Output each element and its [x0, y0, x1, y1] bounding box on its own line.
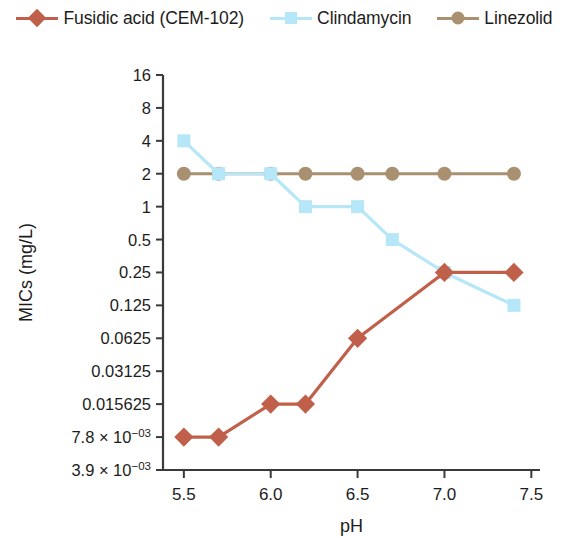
data-point	[504, 263, 523, 282]
data-point	[299, 200, 312, 213]
data-point	[209, 427, 228, 446]
y-axis-tick-label: 0.0625	[101, 329, 151, 347]
y-axis-tick-label: 0.25	[119, 263, 151, 281]
y-axis-tick-label: 16	[133, 66, 151, 84]
x-axis-title: pH	[340, 516, 363, 536]
data-point	[437, 167, 451, 181]
y-axis-tick-label: 4	[142, 132, 151, 150]
data-point	[351, 167, 365, 181]
y-axis-title: MICs (mg/L)	[16, 223, 36, 322]
data-point	[351, 200, 364, 213]
mic-vs-ph-chart: Fusidic acid (CEM-102) Clindamycin Linez…	[0, 0, 569, 538]
x-axis-tick-label: 6.5	[346, 485, 370, 504]
data-point	[298, 167, 312, 181]
y-axis-tick-label: 2	[142, 165, 151, 183]
x-axis-tick-label: 5.5	[172, 485, 196, 504]
data-point	[177, 134, 190, 147]
y-axis-tick-label: 0.03125	[91, 362, 151, 380]
y-axis-tick-label: 8	[142, 99, 151, 117]
series-clindamycin	[177, 134, 520, 312]
y-axis-tick-label: 1	[142, 198, 151, 216]
series-line	[184, 272, 514, 437]
x-axis-tick-label: 6.0	[259, 485, 283, 504]
y-axis-tick-label: 3.9 × 10−03	[71, 460, 151, 479]
data-point	[177, 167, 191, 181]
data-point	[385, 167, 399, 181]
data-point	[264, 167, 277, 180]
y-axis-tick-label: 0.015625	[82, 395, 151, 413]
x-axis-tick-label: 7.0	[433, 485, 457, 504]
data-point	[386, 233, 399, 246]
data-point	[174, 427, 193, 446]
chart-canvas: 1684210.50.250.1250.06250.031250.0156257…	[0, 0, 569, 538]
y-axis-tick-label: 0.125	[110, 296, 151, 314]
data-point	[261, 394, 280, 413]
series-fusidic-acid-cem-102	[174, 263, 523, 447]
y-axis-tick-label: 0.5	[128, 231, 151, 249]
series-line	[184, 141, 514, 306]
y-axis-tick-label: 7.8 × 10−03	[71, 427, 151, 446]
x-axis-tick-label: 7.5	[519, 485, 543, 504]
data-point	[507, 299, 520, 312]
data-point	[507, 167, 521, 181]
data-point	[212, 167, 225, 180]
plot-area: 1684210.50.250.1250.06250.031250.0156257…	[0, 0, 569, 538]
